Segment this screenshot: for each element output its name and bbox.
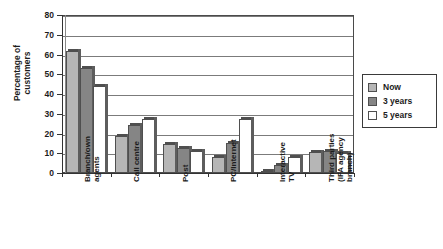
legend: Now 3 years 5 years (362, 74, 437, 128)
y-axis-title: Percentage of customers (12, 18, 32, 128)
y-axis-tick-label: 60 (32, 51, 54, 59)
bar-series-layer (62, 15, 354, 173)
bar (190, 151, 203, 173)
bar-side-face (105, 84, 108, 172)
bar-side-face (251, 117, 254, 172)
x-axis-category-label: PC/Internet (229, 118, 238, 182)
y-axis-tick-label-wrap: 70 (30, 31, 54, 39)
bar (309, 152, 322, 173)
y-axis-tick-label-wrap: 60 (30, 51, 54, 59)
y-axis-tick-label: 20 (32, 130, 54, 138)
x-axis-tick (62, 173, 63, 177)
y-axis-tick-label-wrap: 10 (30, 149, 54, 157)
x-axis-category-label: Third parties (IFA agency branch) (327, 118, 354, 182)
legend-item-3-years: 3 years (368, 94, 432, 108)
legend-swatch-3-years-icon (368, 97, 377, 106)
y-axis-tick-label: 10 (32, 149, 54, 157)
x-axis-category-label: Call centre (132, 118, 141, 182)
legend-item-now: Now (368, 80, 432, 94)
bar (142, 119, 155, 173)
x-axis-category-label: Branch/own agents (83, 118, 101, 182)
bar (239, 119, 252, 173)
y-axis-tick-label-wrap: 80 (30, 11, 54, 19)
bar (212, 157, 225, 173)
x-axis-tick (257, 173, 258, 177)
y-axis-tick-label: 0 (32, 169, 54, 177)
bar-side-face (202, 149, 205, 172)
x-axis-category-label: Interactive TV (278, 118, 296, 182)
legend-swatch-now-icon (368, 83, 377, 92)
bar-chart: Percentage of customers 0102030405060708… (0, 0, 443, 249)
x-axis-category-label: Post (181, 118, 190, 182)
y-axis-tick-label: 40 (32, 90, 54, 98)
bar-side-face (300, 155, 303, 172)
x-axis-tick (305, 173, 306, 177)
x-axis-tick (111, 173, 112, 177)
y-axis-tick-label-wrap: 0 (30, 169, 54, 177)
x-axis-tick (354, 173, 355, 177)
bar (66, 51, 79, 173)
y-axis-tick-label-wrap: 40 (30, 90, 54, 98)
legend-label-5-years: 5 years (383, 110, 412, 120)
legend-label-3-years: 3 years (383, 96, 412, 106)
legend-item-5-years: 5 years (368, 108, 432, 122)
bar-side-face (154, 117, 157, 172)
y-axis-tick-label: 80 (32, 11, 54, 19)
y-axis-tick-label: 30 (32, 110, 54, 118)
y-axis-tick-label: 50 (32, 70, 54, 78)
x-axis-tick (208, 173, 209, 177)
y-axis-tick-label-wrap: 20 (30, 130, 54, 138)
y-axis-tick-label-wrap: 50 (30, 70, 54, 78)
legend-swatch-5-years-icon (368, 111, 377, 120)
bar (163, 144, 176, 173)
y-axis-tick-label: 70 (32, 31, 54, 39)
x-axis-tick (159, 173, 160, 177)
y-axis-tick-label-wrap: 30 (30, 110, 54, 118)
legend-label-now: Now (383, 82, 401, 92)
bar (115, 136, 128, 173)
